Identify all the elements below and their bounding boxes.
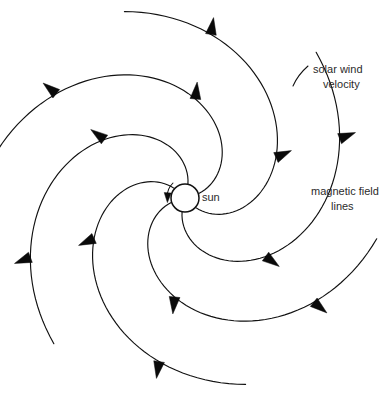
solar-wind-velocity-label-line2: velocity [323, 78, 360, 90]
magnetic-field-lines-label-line2: lines [331, 200, 354, 212]
magnetic-field-lines-label-line1: magnetic field [311, 185, 379, 197]
sun-label: sun [202, 191, 220, 203]
solar-wind-velocity-label-line1: solar wind [313, 63, 363, 75]
parker-spiral-diagram: sun solar wind velocity magnetic field l… [0, 0, 384, 407]
sun-body [171, 184, 199, 212]
